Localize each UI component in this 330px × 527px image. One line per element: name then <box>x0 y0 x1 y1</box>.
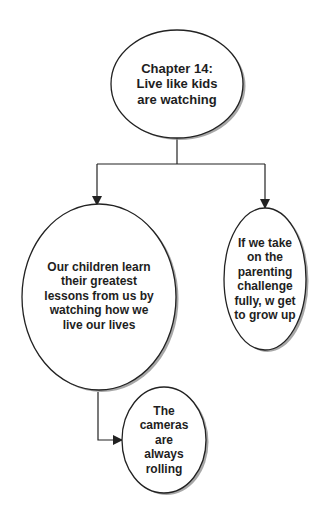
node-left-line-2: their greatest <box>61 274 137 289</box>
node-left-line-3: lessons from us by <box>44 289 153 304</box>
node-bottom-line-3: are <box>155 433 173 448</box>
node-right-line-6: to grow up <box>234 308 295 323</box>
node-left-line-4: watching how we <box>50 303 149 318</box>
node-right-line-5: fully, w get <box>234 294 295 309</box>
node-bottom-line-1: The <box>153 404 174 419</box>
node-root-label: Chapter 14: Live like kids are watching <box>117 52 237 116</box>
node-right-line-3: parenting <box>238 265 293 280</box>
node-right-label: If we take on the parenting challenge fu… <box>225 234 305 324</box>
node-left-label: Our children learn their greatest lesson… <box>29 258 169 334</box>
node-bottom-line-2: cameras <box>140 418 189 433</box>
node-bottom-line-5: rolling <box>146 462 183 477</box>
node-root-line-3: are watching <box>137 92 216 108</box>
node-right-line-1: If we take <box>238 236 292 251</box>
node-left-line-1: Our children learn <box>47 260 150 275</box>
node-root-line-1: Chapter 14: <box>141 61 213 77</box>
node-bottom-line-4: always <box>144 447 183 462</box>
node-root-line-2: Live like kids <box>137 76 218 92</box>
node-bottom-label: The cameras are always rolling <box>124 403 204 477</box>
node-right-line-2: on the <box>247 250 283 265</box>
arrow-to-bottom-node <box>98 392 122 440</box>
node-right-line-4: challenge <box>237 279 292 294</box>
node-left-line-5: live our lives <box>63 318 136 333</box>
